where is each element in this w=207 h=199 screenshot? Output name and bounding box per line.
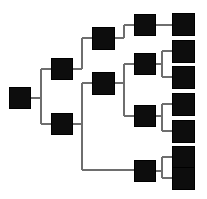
tree-diagram-canvas — [0, 0, 207, 199]
tree-node-level4-node-4[interactable] — [134, 160, 155, 181]
tree-link-level4node3-to-leaves — [155, 104, 172, 131]
tree-node-leaf-node-1[interactable] — [172, 13, 194, 35]
tree-link-level4node4-to-leaves — [155, 157, 172, 178]
tree-node-leaf-node-6[interactable] — [172, 146, 194, 168]
tree-link-level3lower-to-level4 — [114, 64, 134, 116]
tree-node-level2-node-lower[interactable] — [51, 113, 72, 134]
tree-link-level4node2-to-leaves — [155, 51, 172, 77]
tree-node-level4-node-2[interactable] — [134, 53, 155, 74]
tree-link-root-to-level2-split — [30, 69, 51, 124]
tree-node-root-node[interactable] — [9, 87, 30, 108]
tree-node-leaf-node-4[interactable] — [172, 93, 194, 115]
tree-node-leaf-node-7[interactable] — [172, 167, 194, 189]
tree-diagram-svg — [0, 0, 207, 199]
tree-node-level3-node-lower[interactable] — [92, 72, 114, 94]
tree-node-level2-node-upper[interactable] — [51, 58, 72, 79]
tree-link-level2upper-to-level3 — [72, 38, 92, 69]
tree-node-level4-node-3[interactable] — [134, 105, 155, 126]
tree-node-leaf-node-2[interactable] — [172, 40, 194, 62]
tree-node-level3-node-upper[interactable] — [92, 27, 114, 49]
tree-node-level4-node-1[interactable] — [134, 14, 155, 35]
tree-node-leaf-node-3[interactable] — [172, 66, 194, 88]
tree-node-leaf-node-5[interactable] — [172, 120, 194, 142]
tree-link-level3upper-to-level4 — [114, 25, 134, 39]
tree-nodes-group — [9, 13, 194, 189]
